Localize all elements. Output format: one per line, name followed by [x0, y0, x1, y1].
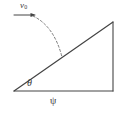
incline-angle-label: θ [27, 78, 32, 88]
initial-velocity-subscript: 0 [24, 4, 27, 10]
base-label: ψ [50, 96, 56, 106]
initial-velocity-label: v0 [20, 1, 27, 10]
projectile-incline-figure: v0 θ ψ [0, 0, 123, 116]
figure-canvas [0, 0, 123, 116]
trajectory-dashed-path [33, 16, 62, 57]
